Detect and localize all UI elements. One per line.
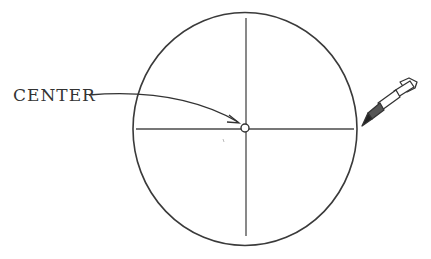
center-label: CENTER <box>13 85 96 105</box>
smudge-mark <box>223 139 224 142</box>
pen-icon <box>362 78 417 126</box>
center-arrow <box>89 94 238 122</box>
circle-diagram: CENTER <box>0 0 431 259</box>
diagram-canvas <box>0 0 431 259</box>
center-point <box>241 124 249 132</box>
arrowhead-icon <box>227 115 239 123</box>
